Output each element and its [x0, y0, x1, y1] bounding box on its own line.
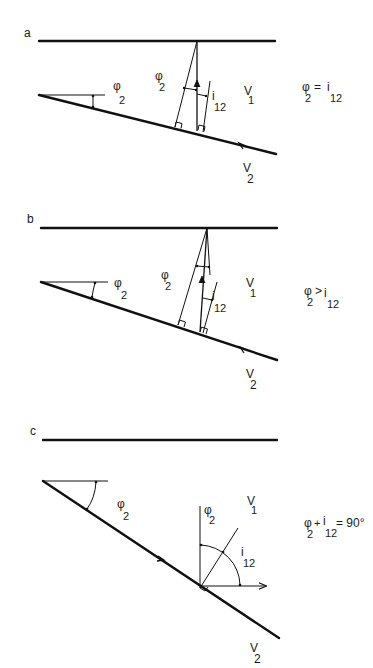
local-normal-line — [200, 528, 238, 588]
relation-formula: φ 2 + i 12 = 90° — [304, 514, 365, 540]
panel-c: c φ 2 φ 2 i 12 V 1 V — [30, 424, 365, 666]
incidence-angle-label: i 12 — [212, 89, 226, 113]
svg-text:2: 2 — [119, 94, 125, 106]
svg-text:i: i — [212, 289, 215, 303]
relation-formula: φ 2 = i 12 — [302, 80, 342, 104]
incidence-angle-label: i 12 — [241, 545, 255, 569]
ray-up-arrow-icon — [194, 80, 200, 87]
angle-marker-i12 — [203, 298, 212, 300]
angle-marker-i12 — [197, 94, 206, 96]
right-angle-mark — [175, 122, 182, 129]
svg-text:2: 2 — [121, 289, 127, 301]
dip-angle-arc — [92, 283, 95, 297]
svg-text:φ: φ — [113, 79, 121, 93]
svg-text:φ: φ — [114, 276, 122, 290]
svg-text:12: 12 — [330, 92, 342, 104]
dip-angle-label: φ 2 — [113, 79, 125, 106]
dip-angle-label: φ 2 — [114, 276, 127, 301]
svg-text:12: 12 — [214, 101, 226, 113]
svg-text:= 90°: = 90° — [336, 516, 365, 530]
svg-text:2: 2 — [254, 652, 261, 666]
angle-marker-phi2 — [197, 266, 209, 267]
svg-text:2: 2 — [250, 378, 257, 392]
svg-text:i: i — [323, 514, 326, 528]
svg-text:>: > — [315, 284, 322, 298]
svg-text:2: 2 — [307, 528, 313, 540]
refraction-geometry-figure: a φ 2 φ 2 i 12 — [0, 0, 373, 668]
panel-label: b — [27, 212, 34, 226]
svg-text:2: 2 — [247, 172, 254, 186]
inner-angle-label: φ 2 — [204, 503, 215, 526]
dip-angle-label: φ 2 — [117, 497, 129, 522]
normal-to-interface-line — [175, 41, 197, 127]
relation-formula: φ 2 > i 12 — [304, 284, 339, 310]
svg-text:+: + — [314, 517, 320, 529]
panel-label: c — [30, 424, 36, 438]
inner-angle-label: φ 2 — [161, 268, 171, 292]
svg-text:2: 2 — [305, 92, 311, 104]
inner-angle-label: φ 2 — [155, 69, 165, 93]
upper-velocity-label: V 1 — [247, 494, 257, 516]
svg-text:=: = — [314, 80, 321, 94]
normal-to-interface-line — [178, 228, 207, 325]
svg-text:1: 1 — [250, 287, 256, 299]
dip-angle-arc — [87, 482, 96, 509]
lower-velocity-label: V 2 — [246, 367, 257, 392]
upper-velocity-label: V 1 — [246, 276, 256, 299]
lower-velocity-label: V 2 — [250, 641, 261, 666]
lower-velocity-label: V 2 — [243, 161, 254, 186]
local-normal-line — [203, 81, 210, 132]
svg-text:2: 2 — [165, 280, 171, 292]
svg-text:12: 12 — [327, 298, 339, 310]
combined-angle-arc — [201, 545, 240, 585]
svg-text:2: 2 — [159, 81, 165, 93]
upper-velocity-label: V 1 — [244, 84, 254, 106]
svg-text:12: 12 — [214, 302, 226, 314]
svg-text:2: 2 — [209, 514, 215, 526]
svg-text:2: 2 — [123, 510, 129, 522]
panel-label: a — [24, 26, 31, 40]
right-angle-mark — [178, 320, 186, 327]
svg-text:2: 2 — [307, 296, 313, 308]
svg-text:1: 1 — [251, 504, 257, 516]
panel-a: a φ 2 φ 2 i 12 — [24, 26, 342, 186]
svg-text:φ: φ — [117, 497, 125, 511]
svg-text:1: 1 — [248, 94, 254, 106]
svg-text:12: 12 — [243, 557, 255, 569]
incidence-angle-label: i 12 — [212, 289, 226, 314]
panel-b: b φ 2 φ 2 i 12 — [27, 212, 339, 392]
